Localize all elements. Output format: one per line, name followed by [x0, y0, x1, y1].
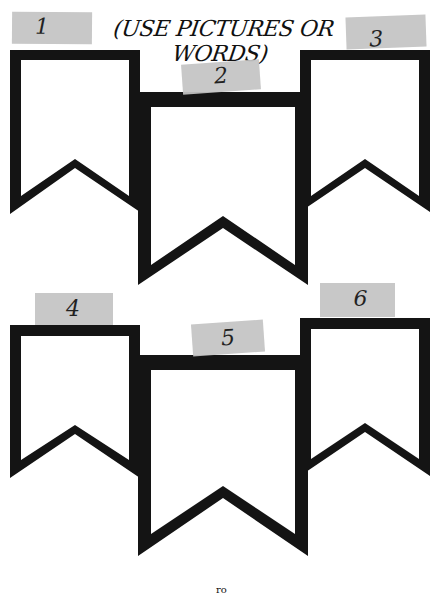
- banner-4[interactable]: [10, 325, 140, 478]
- banner-number-2: 2: [181, 60, 261, 90]
- banner-1[interactable]: [10, 50, 140, 214]
- tape-label-2: 2: [181, 59, 261, 94]
- banner-number-5: 5: [191, 323, 265, 353]
- tape-label-5: 5: [191, 320, 265, 357]
- banner-number-4: 4: [33, 296, 113, 321]
- banner-5[interactable]: [138, 355, 308, 556]
- banner-3[interactable]: [300, 50, 430, 212]
- footer-mark: ro: [216, 584, 227, 594]
- banner-2[interactable]: [138, 92, 308, 285]
- tape-label-6: 6: [320, 283, 395, 317]
- tape-label-1: 1: [12, 12, 92, 45]
- banner-number-3: 3: [326, 25, 427, 53]
- banner-number-6: 6: [326, 286, 395, 311]
- instruction-heading: (USE PICTURES OR WORDS): [88, 16, 355, 66]
- tape-label-4: 4: [35, 293, 113, 325]
- tape-label-3: 3: [345, 15, 426, 50]
- banner-number-1: 1: [0, 13, 92, 39]
- banner-6[interactable]: [300, 318, 430, 476]
